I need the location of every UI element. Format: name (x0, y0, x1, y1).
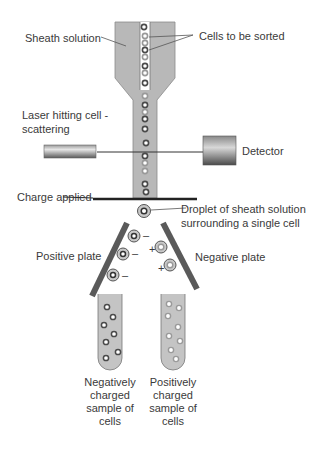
caption-pos-line3: sample of (143, 402, 203, 415)
detector-box (203, 136, 236, 165)
charge-plus-2: + (158, 262, 164, 275)
droplet (138, 205, 151, 218)
caption-neg-line2: charged (80, 389, 140, 402)
caption-pos-line4: cells (143, 415, 203, 428)
label-sheath-solution: Sheath solution (25, 32, 101, 45)
label-droplet-line2: surrounding a single cell (181, 217, 300, 230)
caption-pos-line1: Positively (143, 376, 203, 389)
negative-plate (163, 223, 197, 289)
label-laser-line1: Laser hitting cell - (22, 109, 108, 122)
label-droplet-line1: Droplet of sheath solution (181, 203, 306, 216)
charge-minus-2: – (132, 247, 138, 260)
caption-neg-line4: cells (80, 415, 140, 428)
caption-pos-line2: charged (143, 389, 203, 402)
negative-tube (98, 294, 122, 370)
label-negative-plate: Negative plate (195, 251, 265, 264)
charge-minus-3: – (122, 269, 128, 282)
caption-positive-sample: Positively charged sample of cells (143, 376, 203, 428)
label-charge-applied: Charge applied (17, 191, 92, 204)
label-laser-line2: scattering (22, 123, 70, 136)
laser-source (44, 145, 96, 158)
caption-neg-line3: sample of (80, 402, 140, 415)
label-positive-plate: Positive plate (36, 250, 101, 263)
positive-tube (161, 294, 185, 370)
label-detector: Detector (242, 145, 284, 158)
label-cells-to-be-sorted: Cells to be sorted (199, 30, 285, 43)
caption-negative-sample: Negatively charged sample of cells (80, 376, 140, 428)
charge-minus-1: – (143, 229, 149, 242)
charge-plus-1: + (149, 243, 155, 256)
caption-neg-line1: Negatively (80, 376, 140, 389)
